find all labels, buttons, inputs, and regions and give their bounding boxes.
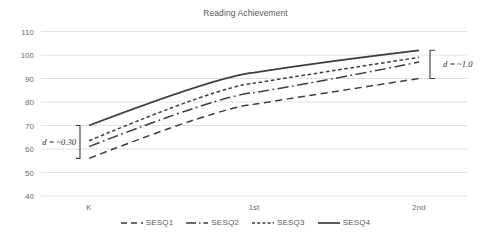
legend-item-sesq2[interactable]: SESQ2	[186, 218, 239, 227]
y-tick-label: 50	[25, 169, 34, 178]
legend-item-sesq4[interactable]: SESQ4	[318, 218, 371, 227]
annotation-right: d = ~1.0	[430, 50, 473, 78]
y-tick-label: 40	[25, 192, 34, 201]
y-tick-label: 100	[21, 51, 35, 60]
gridlines	[41, 32, 467, 197]
x-tick-label: K	[86, 203, 92, 212]
bracket-left-icon	[76, 126, 80, 159]
y-tick-label: 80	[25, 98, 34, 107]
annotation-left-label: d = ~0.30	[42, 137, 76, 147]
legend-swatch-dotted-icon	[252, 219, 274, 227]
bracket-right-icon	[430, 50, 435, 78]
series-line-sesq3	[89, 57, 419, 140]
series-line-sesq1	[89, 79, 419, 159]
legend-label: SESQ4	[343, 218, 371, 227]
x-axis-labels: K 1st 2nd	[86, 203, 425, 212]
legend-label: SESQ3	[277, 218, 305, 227]
y-tick-label: 110	[21, 28, 34, 37]
chart-legend: SESQ1 SESQ2 SESQ3 SESQ4	[0, 218, 491, 227]
legend-swatch-dashed-icon	[121, 219, 143, 227]
y-tick-label: 90	[25, 75, 34, 84]
chart-container: Reading Achievement 110 100 90 80 70 60 …	[0, 0, 491, 239]
x-tick-label: 1st	[249, 203, 260, 212]
chart-plot-area: 110 100 90 80 70 60 50 40 K 1st 2nd d = …	[0, 0, 491, 239]
legend-item-sesq1[interactable]: SESQ1	[121, 218, 174, 227]
legend-swatch-dashdot-icon	[186, 219, 208, 227]
y-axis-labels: 110 100 90 80 70 60 50 40	[21, 28, 35, 202]
y-tick-label: 70	[25, 122, 34, 131]
legend-swatch-solid-icon	[318, 219, 340, 227]
legend-label: SESQ2	[211, 218, 239, 227]
annotation-left: d = ~0.30	[42, 126, 80, 159]
legend-item-sesq3[interactable]: SESQ3	[252, 218, 305, 227]
y-tick-label: 60	[25, 145, 34, 154]
data-series-layer	[89, 50, 419, 158]
x-tick-label: 2nd	[412, 203, 425, 212]
legend-label: SESQ1	[146, 218, 174, 227]
series-line-sesq4	[89, 50, 419, 125]
annotation-right-label: d = ~1.0	[443, 59, 473, 69]
